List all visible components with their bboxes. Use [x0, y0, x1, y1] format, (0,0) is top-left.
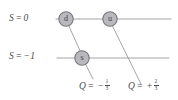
charge-symbol-0: Q [79, 81, 86, 91]
charge-sign-0: − [97, 81, 104, 91]
quark-label-d: d [64, 14, 68, 23]
charge-numerator-0: 1 [105, 79, 109, 85]
guide-line-d-to-s [68, 24, 81, 53]
strangeness-value-0: 0 [24, 13, 29, 23]
charge-symbol-1: Q [128, 81, 135, 91]
quark-label-s: s [80, 53, 83, 62]
strangeness-value-1: −1 [24, 51, 36, 61]
guide-lines [56, 19, 171, 84]
strangeness-equals-0: = [15, 13, 22, 23]
quark-label-u: u [108, 14, 112, 23]
quark-nodes: d u s [59, 12, 117, 65]
charge-numerator-1: 2 [154, 79, 158, 85]
charge-denominator-1: 3 [154, 86, 158, 92]
strangeness-symbol-1: S [9, 51, 14, 61]
strangeness-symbol-0: S [9, 13, 14, 23]
axis-label-charge-plus-two-thirds: Q=+23 [128, 79, 159, 92]
guide-line-s-to-qdown [85, 63, 93, 79]
charge-sign-1: + [146, 81, 153, 91]
figure-canvas: d u s S=0 S=−1 Q=−13 Q=+23 [0, 0, 178, 100]
charge-equals-0: = [88, 81, 95, 91]
charge-equals-1: = [137, 81, 144, 91]
charge-fraction-0: 13 [105, 79, 110, 92]
quark-node-s[interactable]: s [75, 51, 89, 65]
guide-line-u-to-qup [112, 25, 141, 84]
axis-label-strangeness-minus-1: S=−1 [9, 51, 35, 61]
axis-label-charge-minus-one-third: Q=−13 [79, 79, 110, 92]
strangeness-equals-1: = [15, 51, 22, 61]
charge-denominator-0: 3 [105, 86, 109, 92]
quark-node-u[interactable]: u [103, 12, 117, 26]
charge-fraction-1: 23 [154, 79, 159, 92]
quark-node-d[interactable]: d [59, 12, 73, 26]
axis-label-strangeness-0: S=0 [9, 13, 29, 23]
